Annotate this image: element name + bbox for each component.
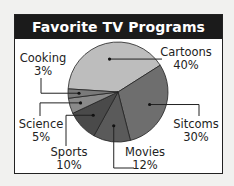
- label-science: Science5%: [16, 118, 66, 144]
- label-cooking: Cooking3%: [18, 52, 68, 78]
- label-cartoons: Cartoons40%: [146, 46, 226, 72]
- pie-chart: [0, 0, 234, 186]
- label-sitcoms: Sitcoms30%: [166, 118, 226, 144]
- label-movies: Movies12%: [120, 146, 170, 172]
- label-sports: Sports10%: [44, 146, 94, 172]
